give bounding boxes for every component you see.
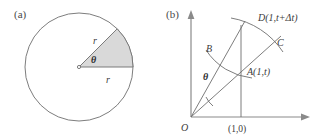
figure-container: (a) r r θ (b) xyxy=(0,0,319,137)
panel-b-tag: (b) xyxy=(166,8,179,21)
figure-svg: (a) r r θ (b) xyxy=(0,0,319,137)
shaded-sector xyxy=(79,29,133,67)
point-C-label: C xyxy=(277,37,284,48)
circle-center-dot xyxy=(77,65,80,68)
x-tick-label: (1,0) xyxy=(228,124,246,135)
ray-O-to-D xyxy=(191,21,245,117)
point-B-label: B xyxy=(206,43,212,54)
radius-label-upper: r xyxy=(93,35,97,46)
panel-a-tag: (a) xyxy=(14,8,27,21)
radius-label-lower: r xyxy=(106,74,110,85)
unit-arc-BA xyxy=(206,50,252,78)
y-axis-arrowhead xyxy=(188,10,195,19)
origin-label: O xyxy=(181,122,188,133)
point-D-label: D(1,t+Δt) xyxy=(257,12,298,24)
x-axis-arrowhead xyxy=(301,114,310,121)
panel-b-group: (b) θ D(1,t+Δt) C B A(1, xyxy=(166,8,310,135)
point-A-label: A(1,t) xyxy=(246,66,271,78)
angle-theta-label-b: θ xyxy=(203,71,209,82)
angle-theta-label-a: θ xyxy=(91,54,97,65)
outer-arc-DC xyxy=(231,18,283,52)
panel-a-group: (a) r r θ xyxy=(14,8,133,121)
